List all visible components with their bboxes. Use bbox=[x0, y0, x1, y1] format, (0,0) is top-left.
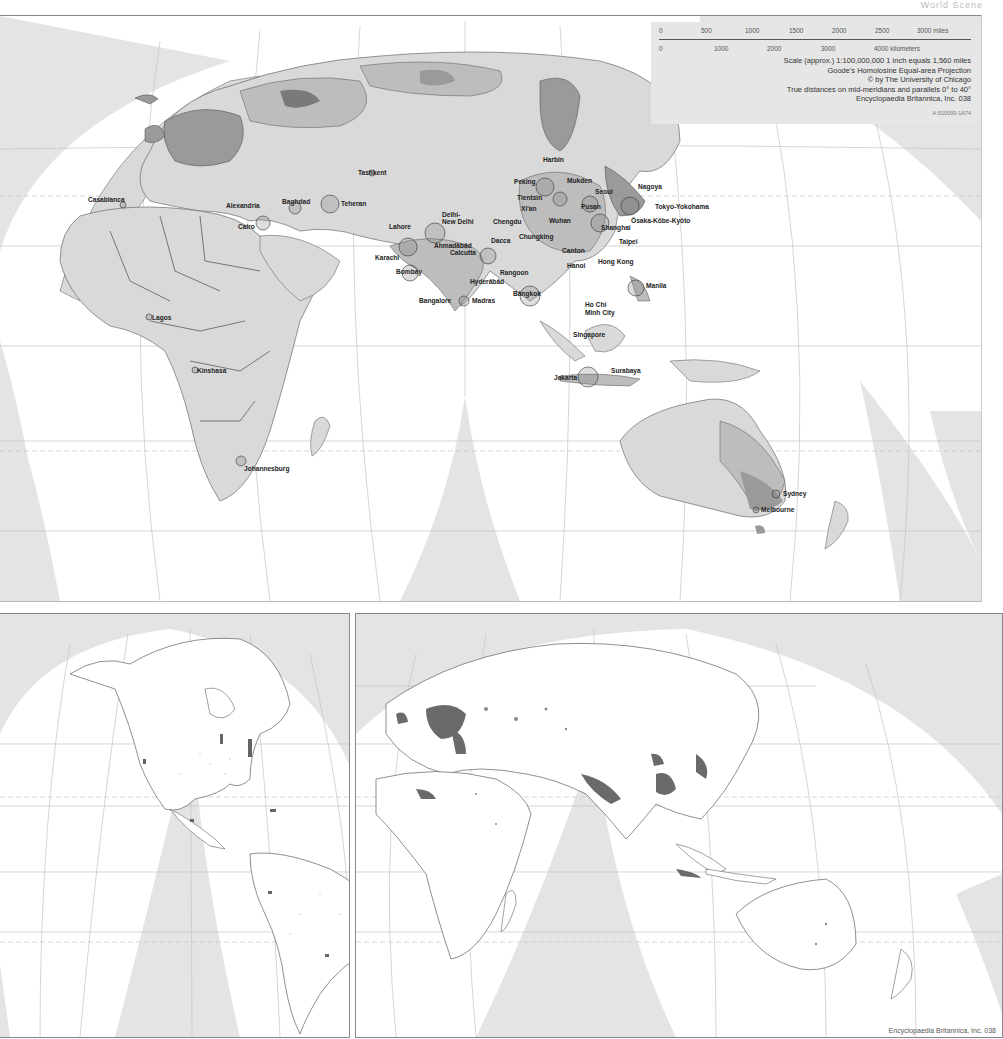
miles-tick-label: 2500 bbox=[875, 26, 889, 36]
city-label: Tashkent bbox=[358, 169, 386, 176]
americas-population-map bbox=[0, 613, 350, 1038]
city-label: Tientsin bbox=[517, 194, 542, 201]
miles-tick-label: 0 bbox=[659, 26, 663, 36]
km-tick-label: 2000 bbox=[767, 44, 781, 54]
city-label: Cairo bbox=[238, 223, 255, 230]
city-label: Ōsaka-Kōbe-Kyōto bbox=[631, 217, 690, 224]
page-header-title: World Scene bbox=[921, 0, 983, 10]
city-label: New Delhi bbox=[442, 218, 474, 225]
city-label: Casablanca bbox=[88, 196, 125, 203]
city-label: Lahore bbox=[389, 223, 411, 230]
city-label: Lagos bbox=[152, 314, 171, 321]
km-tick-label: 0 bbox=[659, 44, 663, 54]
city-label: Teheran bbox=[341, 200, 366, 207]
city-label: Taipei bbox=[619, 238, 638, 245]
city-label: Melbourne bbox=[761, 506, 794, 513]
city-label: Singapore bbox=[573, 331, 605, 338]
city-label: Pusan bbox=[581, 203, 601, 210]
city-label: Seoul bbox=[595, 188, 613, 195]
city-label: Johannesburg bbox=[244, 465, 289, 472]
city-label: Minh City bbox=[585, 309, 615, 316]
city-label: Kinshasa bbox=[197, 367, 226, 374]
miles-tick-label: 2000 bbox=[832, 26, 846, 36]
projection-text: Goode's Homolosine Equal-area Projection bbox=[659, 66, 971, 76]
city-label: Xi'an bbox=[521, 205, 537, 212]
city-label: Delhi- bbox=[442, 211, 460, 218]
city-label: Wuhan bbox=[549, 217, 571, 224]
city-label: Hyderābād bbox=[470, 278, 504, 285]
miles-tick-label: 1000 bbox=[745, 26, 759, 36]
city-label: Canton bbox=[562, 247, 585, 254]
scale-ratio-text: Scale (approx.) 1:100,000,000 1 inch equ… bbox=[659, 56, 971, 66]
city-label: Peking bbox=[514, 178, 536, 185]
city-label: Harbin bbox=[543, 156, 564, 163]
city-label: Ahmadābād bbox=[434, 242, 472, 249]
city-label: Bombay bbox=[396, 268, 422, 275]
americas-map-graphic bbox=[0, 614, 349, 1037]
km-tick-label: 3000 bbox=[821, 44, 835, 54]
main-population-density-map: 0 500 1000 1500 2000 2500 3000 miles 0 1… bbox=[0, 15, 982, 602]
miles-tick-label: 3000 miles bbox=[917, 26, 948, 36]
km-scale-labels: 0 1000 2000 3000 4000 kilometers bbox=[659, 44, 971, 56]
city-label: Bāngkok bbox=[513, 290, 541, 297]
city-label: Alexandria bbox=[226, 202, 260, 209]
city-label: Calcutta bbox=[450, 249, 476, 256]
map-scale-legend: 0 500 1000 1500 2000 2500 3000 miles 0 1… bbox=[651, 22, 979, 124]
city-label: Bangalore bbox=[419, 297, 451, 304]
eastern-map-graphic bbox=[356, 614, 1002, 1037]
city-label: Tokyo-Yokohama bbox=[655, 203, 709, 210]
true-distances-text: True distances on mid-meridians and para… bbox=[659, 85, 971, 95]
city-label: Manila bbox=[646, 282, 667, 289]
miles-tick-label: 500 bbox=[701, 26, 712, 36]
city-label: Sydney bbox=[783, 490, 806, 497]
map-code: A-510000-1A74 bbox=[659, 109, 971, 119]
city-label: Hong Kong bbox=[598, 258, 634, 265]
city-label: Rangoon bbox=[500, 269, 529, 276]
scale-bar bbox=[659, 39, 971, 43]
city-label: Madras bbox=[472, 297, 495, 304]
city-label: Dacca bbox=[491, 237, 510, 244]
city-label: Hanoi bbox=[567, 262, 585, 269]
publisher-credit: Encyclopaedia Britannica, Inc. 038 bbox=[889, 1027, 996, 1034]
city-label: Shanghai bbox=[601, 224, 631, 231]
km-tick-label: 4000 kilometers bbox=[874, 44, 920, 54]
eastern-hemisphere-population-map: Encyclopaedia Britannica, Inc. 038 bbox=[355, 613, 1003, 1038]
city-label: Chungking bbox=[519, 233, 553, 240]
miles-tick-label: 1500 bbox=[789, 26, 803, 36]
city-label: Karachi bbox=[375, 254, 399, 261]
city-label: Nagoya bbox=[638, 183, 662, 190]
km-tick-label: 1000 bbox=[714, 44, 728, 54]
publisher-text: Encyclopaedia Britannica, Inc. 038 bbox=[659, 94, 971, 104]
miles-scale-labels: 0 500 1000 1500 2000 2500 3000 miles bbox=[659, 26, 971, 38]
city-label: Chengdu bbox=[493, 218, 522, 225]
city-label: Jakarta bbox=[554, 374, 577, 381]
copyright-text: © by The University of Chicago bbox=[659, 75, 971, 85]
city-label: Mukden bbox=[567, 177, 592, 184]
city-label: Surabaya bbox=[611, 367, 641, 374]
city-label: Baghdad bbox=[282, 198, 310, 205]
city-label: Ho Chi bbox=[585, 301, 606, 308]
